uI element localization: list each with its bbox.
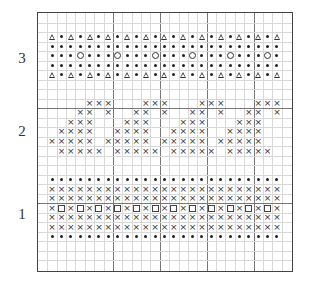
cross-symbol [150,213,159,223]
cross-symbol [179,213,188,223]
dot-symbol [188,32,197,42]
cross-symbol [47,222,56,232]
dot-symbol [254,51,263,61]
triangle-symbol [235,70,244,80]
dot-symbol [169,232,178,242]
dot-symbol [85,51,94,61]
grid-line-horizontal [38,260,292,261]
triangle-symbol [47,32,56,42]
grid-line-horizontal [38,156,292,157]
cross-symbol [75,146,84,156]
dot-symbol [75,232,84,242]
cross-symbol [254,194,263,204]
triangle-symbol [104,70,113,80]
cross-symbol [57,194,66,204]
dot-symbol [188,70,197,80]
dot-symbol [85,61,94,71]
dot-symbol [47,42,56,52]
dot-symbol [188,42,197,52]
dot-symbol [207,70,216,80]
cross-symbol [66,222,75,232]
cross-symbol [188,146,197,156]
dot-symbol [150,42,159,52]
dot-symbol [169,61,178,71]
triangle-symbol [254,70,263,80]
dot-symbol [225,61,234,71]
triangle-symbol [141,32,150,42]
dot-symbol [75,70,84,80]
dot-symbol [113,175,122,185]
dot-symbol [197,61,206,71]
dot-symbol [132,61,141,71]
dot-symbol [207,32,216,42]
dot-symbol [188,232,197,242]
dot-symbol [216,51,225,61]
dot-symbol [169,175,178,185]
dot-symbol [207,232,216,242]
dot-symbol [244,51,253,61]
triangle-symbol [141,70,150,80]
dot-symbol [179,61,188,71]
dot-symbol [244,61,253,71]
dot-symbol [122,232,131,242]
dot-symbol [169,51,178,61]
dot-symbol [104,42,113,52]
dot-symbol [160,232,169,242]
cross-symbol [263,146,272,156]
triangle-symbol [235,32,244,42]
dot-symbol [225,175,234,185]
dot-symbol [85,42,94,52]
cross-symbol [254,146,263,156]
cross-symbol [169,194,178,204]
cross-symbol [141,213,150,223]
dot-symbol [244,175,253,185]
triangle-symbol [272,70,281,80]
cross-symbol [141,137,150,147]
cross-symbol [132,146,141,156]
cross-symbol [235,222,244,232]
cross-symbol [197,213,206,223]
circle-symbol [263,51,272,61]
cross-symbol [216,213,225,223]
triangle-symbol [197,70,206,80]
dot-symbol [94,70,103,80]
cross-symbol [57,146,66,156]
cross-symbol [160,222,169,232]
dot-symbol [225,232,234,242]
dot-symbol [47,61,56,71]
dot-symbol [66,175,75,185]
dot-symbol [85,175,94,185]
dot-symbol [94,32,103,42]
dot-symbol [132,175,141,185]
dot-symbol [104,175,113,185]
dot-symbol [57,61,66,71]
dot-symbol [272,42,281,52]
cross-symbol [57,213,66,223]
cross-symbol [179,137,188,147]
cross-symbol [104,213,113,223]
dot-symbol [235,51,244,61]
cross-symbol [207,222,216,232]
grid-line-horizontal [38,23,292,24]
circle-symbol [225,51,234,61]
dot-symbol [244,232,253,242]
dot-symbol [254,61,263,71]
dot-symbol [235,175,244,185]
grid-line-horizontal [38,80,292,81]
dot-symbol [235,61,244,71]
dot-symbol [216,61,225,71]
circle-symbol [75,51,84,61]
grid-line-horizontal [38,165,292,166]
cross-symbol [94,99,103,109]
dot-symbol [75,175,84,185]
cross-symbol [85,222,94,232]
dot-symbol [141,61,150,71]
dot-symbol [225,42,234,52]
dot-symbol [235,232,244,242]
dot-symbol [104,232,113,242]
dot-symbol [160,175,169,185]
cross-symbol [141,222,150,232]
dot-symbol [272,51,281,61]
cross-symbol [207,194,216,204]
cross-symbol [132,194,141,204]
